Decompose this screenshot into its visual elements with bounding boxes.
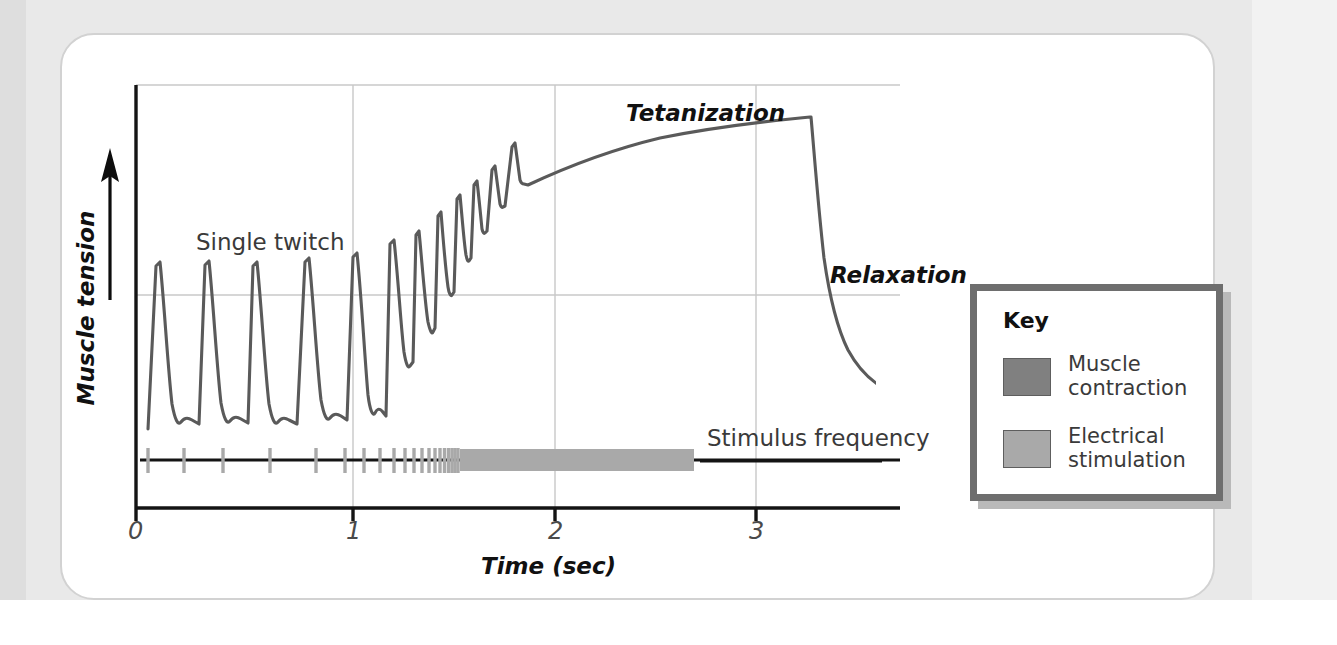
annotation-relaxation: Relaxation (830, 262, 967, 288)
muscle-tension-arrow (101, 148, 119, 300)
key-label-line-2: contraction (1068, 376, 1187, 400)
x-axis-label: Time (sec) (481, 553, 616, 579)
annotation-stimulus-frequency: Stimulus frequency (707, 425, 930, 451)
key-box: Key Muscle contraction Electrical stimul… (970, 284, 1223, 501)
key-label-electrical-stimulation: Electrical stimulation (1068, 425, 1186, 472)
x-tick-label-2: 2 (548, 517, 563, 545)
muscle-tension-trace-group (148, 117, 898, 429)
x-tick-label-1: 1 (346, 517, 361, 545)
key-label-line-1: Muscle (1068, 352, 1141, 376)
muscle-tension-trace (148, 117, 898, 429)
y-axis-label: Muscle tension (73, 193, 99, 423)
x-tick-label-0: 0 (128, 517, 143, 545)
x-axis-ticks (136, 508, 756, 521)
figure-page: Single twitch Tetanization Relaxation St… (0, 0, 1337, 645)
stimulus-continuous-bar (460, 449, 694, 471)
x-tick-label-3: 3 (749, 517, 764, 545)
key-title: Key (1003, 308, 1049, 333)
key-label-line-1: Electrical (1068, 424, 1165, 448)
key-item-electrical-stimulation: Electrical stimulation (1003, 425, 1186, 472)
key-label-muscle-contraction: Muscle contraction (1068, 353, 1187, 400)
key-label-line-2: stimulation (1068, 448, 1186, 472)
key-item-muscle-contraction: Muscle contraction (1003, 353, 1187, 400)
key-swatch-electrical-stimulation (1003, 430, 1051, 468)
annotation-tetanization: Tetanization (626, 100, 785, 126)
annotation-single-twitch: Single twitch (196, 229, 344, 255)
key-swatch-muscle-contraction (1003, 358, 1051, 396)
